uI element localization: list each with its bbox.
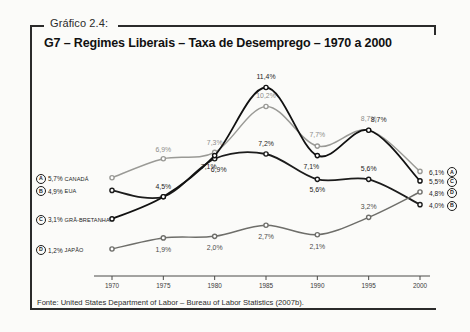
- data-point-label: 5,6%: [309, 186, 325, 193]
- x-axis-tick-label: 1980: [208, 282, 222, 289]
- x-axis-tick-label: 1985: [259, 282, 273, 289]
- legend-country: JAPÃO: [65, 247, 84, 253]
- legend-badge-icon: C: [36, 215, 46, 225]
- legend-badge-icon: C: [447, 177, 457, 187]
- data-point-label: 7,1%: [303, 163, 319, 170]
- legend-badge-icon: D: [36, 245, 46, 255]
- legend-end-value: 6,1%: [429, 169, 444, 176]
- legend-end-label-a: 6,1%A: [429, 167, 457, 177]
- data-point-label: 7,2%: [258, 140, 274, 147]
- legend-country: CANADÁ: [65, 176, 89, 182]
- legend-value: 5,7%: [48, 175, 63, 182]
- legend-badge-icon: B: [447, 201, 457, 211]
- legend-value: 1,2%: [48, 247, 63, 254]
- line-chart-plot: [0, 0, 470, 332]
- legend-badge-icon: B: [36, 186, 46, 196]
- data-point-label: 10,2%: [256, 92, 276, 99]
- x-axis-tick-label: 1975: [156, 282, 170, 289]
- data-point-label: 1,9%: [155, 246, 171, 253]
- legend-value: 3,1%: [48, 216, 63, 223]
- legend-item-gr-bretanha: C3,1%GRÃ-BRETANHA: [36, 215, 110, 225]
- legend-country: GRÃ-BRETANHA: [65, 217, 110, 223]
- data-point-label: 6,9%: [155, 146, 171, 153]
- figure-container: Gráfico 2.4: G7 – Regimes Liberais – Tax…: [0, 0, 470, 332]
- data-point-label: 4,5%: [155, 183, 171, 190]
- legend-end-label-b: 4,0%B: [429, 201, 457, 211]
- x-axis-tick-label: 1990: [310, 282, 324, 289]
- legend-item-eua: B4,9%EUA: [36, 186, 76, 196]
- legend-value: 4,9%: [48, 188, 63, 195]
- legend-badge-icon: D: [447, 188, 457, 198]
- legend-badge-icon: A: [447, 167, 457, 177]
- data-point-label: 5,6%: [361, 165, 377, 172]
- legend-end-value: 4,0%: [429, 202, 444, 209]
- x-axis-tick-label: 1995: [362, 282, 376, 289]
- data-point-label: 2,1%: [309, 243, 325, 250]
- data-point-label: 3,2%: [361, 203, 377, 210]
- x-axis-tick-label: 1970: [105, 282, 119, 289]
- data-point-label: 7,3%: [207, 139, 223, 146]
- data-point-label: 2,7%: [258, 233, 274, 240]
- data-point-label: 7,1%: [201, 163, 217, 170]
- data-point-label: 7,7%: [309, 131, 325, 138]
- data-point-label: 11,4%: [256, 73, 275, 80]
- legend-badge-icon: A: [36, 174, 46, 184]
- legend-end-label-c: 5,5%C: [429, 177, 457, 187]
- data-point-label: 2,0%: [207, 244, 223, 251]
- legend-end-value: 4,8%: [429, 190, 444, 197]
- data-point-label: 8,7%: [371, 116, 387, 123]
- legend-country: EUA: [65, 188, 77, 194]
- legend-item-canad-: A5,7%CANADÁ: [36, 174, 89, 184]
- figure-source-note: Fonte: United States Department of Labor…: [37, 298, 304, 307]
- legend-end-label-d: 4,8%D: [429, 188, 457, 198]
- x-axis-tick-label: 2000: [413, 282, 427, 289]
- legend-item-jap-o: D1,2%JAPÃO: [36, 245, 83, 255]
- legend-end-value: 5,5%: [429, 178, 444, 185]
